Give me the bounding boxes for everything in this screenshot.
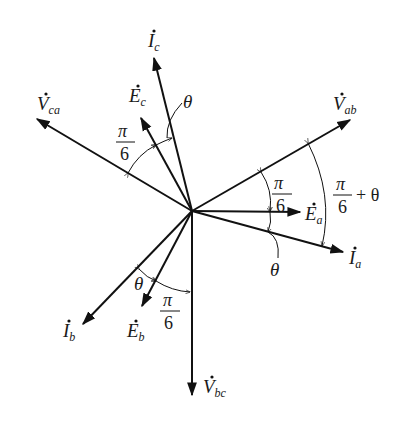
svg-text:π: π: [163, 290, 173, 310]
svg-text:+ θ: + θ: [356, 185, 379, 205]
label-ic: Ic: [147, 29, 160, 54]
angle-label-theta-a: θ: [270, 259, 279, 280]
svg-text:6: 6: [164, 313, 173, 333]
label-vbc: Vbc: [203, 375, 227, 400]
label-eb: Eb: [126, 319, 145, 344]
phasor-vca: [37, 119, 192, 211]
label-ib: Ib: [62, 319, 75, 344]
phasor-ic: [154, 58, 192, 211]
svg-text:Ib: Ib: [62, 320, 75, 344]
label-ia: Ia: [348, 246, 361, 271]
angle-label-pi6-c: π 6: [116, 121, 135, 164]
svg-text:6: 6: [338, 197, 347, 217]
arc-vab-ea: [261, 172, 271, 211]
svg-text:Eb: Eb: [126, 320, 145, 344]
phasor-vab: [192, 120, 350, 211]
angle-label-pi6-b: π 6: [160, 290, 180, 333]
phasor-ec: [141, 118, 192, 211]
arc-vab-ia: [308, 143, 326, 246]
angle-label-pi6-plus-theta: π 6 + θ: [333, 174, 379, 217]
arc-vca-ec: [128, 145, 156, 173]
svg-text:Vca: Vca: [37, 93, 60, 117]
label-ec: Ec: [128, 84, 147, 109]
label-vab: Vab: [333, 92, 357, 117]
arc-ea-ia: [268, 212, 271, 232]
svg-text:Ea: Ea: [304, 203, 323, 227]
arc-eb-vbc: [156, 281, 190, 292]
phasor-ib: [83, 211, 192, 324]
theta-leader-a: [268, 232, 278, 258]
svg-text:Ia: Ia: [348, 247, 361, 271]
svg-text:Ec: Ec: [128, 85, 147, 109]
svg-text:π: π: [118, 121, 128, 141]
svg-text:6: 6: [276, 196, 285, 216]
label-ea: Ea: [304, 202, 323, 227]
phasor-diagram: Vab Ea Ia Vbc Eb Ib Vca Ec Ic π 6 π: [0, 0, 406, 421]
svg-text:6: 6: [120, 144, 129, 164]
angle-label-theta-b: θ: [134, 273, 143, 294]
svg-text:Ic: Ic: [147, 30, 160, 54]
svg-text:Vab: Vab: [333, 93, 357, 117]
svg-text:π: π: [274, 173, 284, 193]
arc-ec-ic: [156, 138, 172, 145]
svg-text:Vbc: Vbc: [203, 376, 227, 400]
svg-text:π: π: [336, 174, 346, 194]
angle-label-theta-c: θ: [183, 91, 192, 112]
label-vca: Vca: [37, 92, 60, 117]
angle-label-pi6-a: π 6: [272, 173, 292, 216]
